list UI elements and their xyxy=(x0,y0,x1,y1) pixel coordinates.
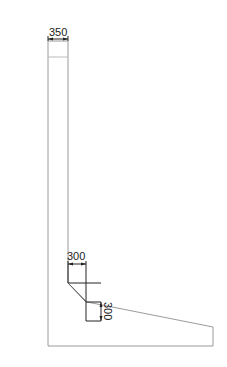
top-width-dimension: 350 xyxy=(48,26,68,41)
haunch-height-label: 300 xyxy=(102,302,114,320)
haunch-detail xyxy=(68,261,101,321)
wall-outline xyxy=(48,41,213,346)
haunch-width-label: 300 xyxy=(67,250,85,262)
top-width-label: 350 xyxy=(49,26,67,38)
wall-section-drawing: 350 300 300 xyxy=(0,0,227,367)
haunch-height-dimension: 300 xyxy=(100,302,115,321)
haunch-width-dimension: 300 xyxy=(67,250,86,266)
